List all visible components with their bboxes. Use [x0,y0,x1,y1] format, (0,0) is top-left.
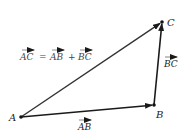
point-c-label: C [167,17,175,28]
point-a [19,115,23,119]
equation-term-ab: AB [49,52,63,62]
label-bc-text: BC [163,59,178,69]
point-b-label: B [155,109,163,120]
label-ab: AB [77,120,91,132]
vector-ac-line [21,23,160,117]
equation-plus: + [68,52,76,62]
equation-equals: = [39,52,47,62]
vector-ab-line [21,105,152,117]
label-ab-text: AB [77,122,91,132]
equation-term-bc: BC [77,52,92,62]
vector-bc-line [154,24,162,105]
label-bc: BC [163,57,178,69]
equation: AC = AB + BC [19,50,92,62]
equation-lhs: AC [19,52,33,62]
point-a-label: A [8,112,16,123]
point-c [160,20,164,24]
point-b [152,103,156,107]
vector-addition-diagram: A B C AB BC AC = AB + BC [0,0,188,138]
